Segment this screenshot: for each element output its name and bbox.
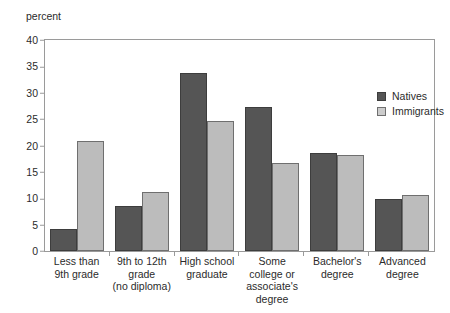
y-tick-25: 25 [26,114,45,125]
y-tick-15: 15 [26,167,45,178]
x-label-5-line2: degree [371,268,434,281]
bar-natives-0 [50,229,77,251]
x-label-3-line3: associate's [241,280,304,293]
x-label-3-line1: Some [241,255,304,268]
x-label-4: Bachelor's degree [305,255,370,305]
bar-group-3 [239,40,304,251]
bar-natives-2 [180,73,207,251]
x-label-2-line1: High school [175,255,238,268]
x-label-0-line1: Less than [45,255,108,268]
bar-chart-figure: percent 40 35 30 25 20 15 10 5 0 [0,0,450,313]
legend-swatch-immigrants-icon [377,107,386,116]
x-label-2-line2: graduate [175,268,238,281]
legend-label-natives: Natives [392,90,427,102]
bar-group-4 [304,40,369,251]
bar-series-container [45,40,434,251]
bar-natives-4 [310,153,337,251]
bar-immigrants-1 [142,192,169,251]
y-tick-40: 40 [26,35,45,46]
x-label-5: Advanced degree [370,255,435,305]
x-label-1-line1: 9th to 12th [110,255,173,268]
y-tick-35: 35 [26,61,45,72]
x-label-5-line1: Advanced [371,255,434,268]
bar-immigrants-4 [337,155,364,251]
bar-natives-3 [245,107,272,251]
legend-item-immigrants: Immigrants [377,105,444,117]
bar-group-0 [45,40,110,251]
x-label-0-line2: 9th grade [45,268,108,281]
x-label-4-line2: degree [306,268,369,281]
y-axis-unit-label: percent [26,10,61,22]
bar-immigrants-0 [77,141,104,251]
y-tick-20: 20 [26,140,45,151]
bar-immigrants-5 [402,195,429,251]
x-label-4-line1: Bachelor's [306,255,369,268]
y-tick-30: 30 [26,88,45,99]
y-tick-5: 5 [32,219,45,230]
x-label-2: High school graduate [174,255,239,305]
plot-area: 40 35 30 25 20 15 10 5 0 [44,39,435,252]
bar-natives-5 [375,199,402,251]
x-label-3: Some college or associate's degree [240,255,305,305]
x-label-1-line3: (no diploma) [110,280,173,293]
chart-legend: Natives Immigrants [377,90,444,117]
bar-immigrants-2 [207,121,234,251]
x-label-0: Less than 9th grade [44,255,109,305]
legend-swatch-natives-icon [377,92,386,101]
legend-label-immigrants: Immigrants [392,105,444,117]
bar-immigrants-3 [272,163,299,251]
x-label-3-line2: college or [241,268,304,281]
x-label-1-line2: grade [110,268,173,281]
bar-group-2 [175,40,240,251]
bar-natives-1 [115,206,142,251]
x-label-1: 9th to 12th grade (no diploma) [109,255,174,305]
y-tick-10: 10 [26,193,45,204]
x-axis-category-labels: Less than 9th grade 9th to 12th grade (n… [44,255,435,305]
bar-group-5 [369,40,434,251]
bar-group-1 [110,40,175,251]
x-label-3-line4: degree [241,293,304,306]
legend-item-natives: Natives [377,90,444,102]
